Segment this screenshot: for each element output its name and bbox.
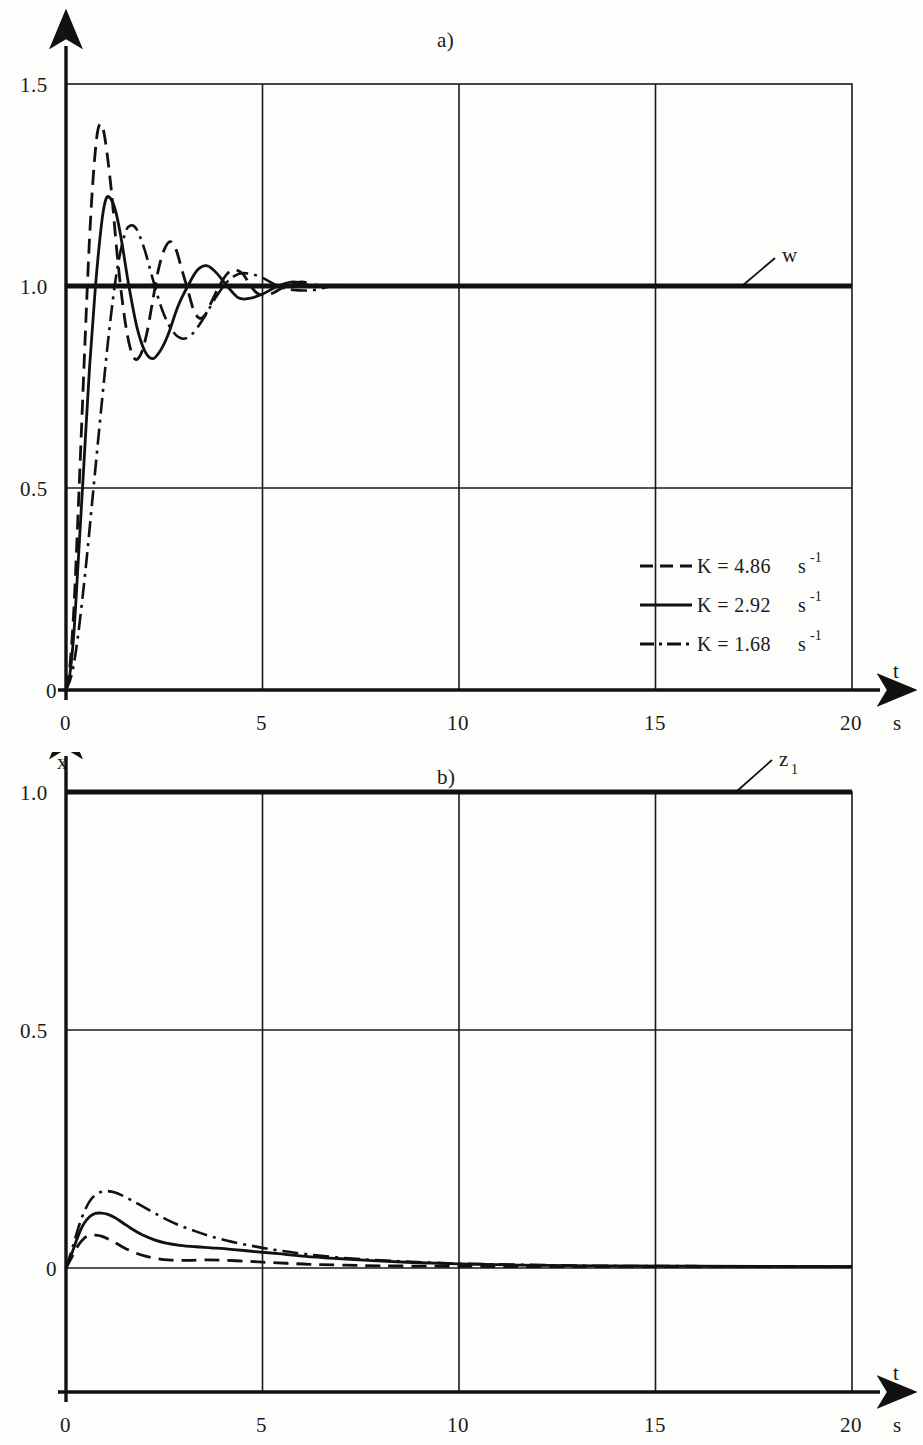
x-axis-unit-a: s <box>893 711 902 735</box>
panel-a-label: a) <box>437 28 454 53</box>
y-tick-b-2: 1.0 <box>20 781 48 805</box>
x-ticks-a: 0 5 10 15 20 <box>60 711 862 735</box>
x-tick-a-0: 0 <box>60 711 71 735</box>
x-tick-a-2: 10 <box>447 711 469 735</box>
x-ticks-b: 0 5 10 15 20 <box>60 1413 862 1437</box>
y-ticks-b: 1.0 0.5 0 <box>20 781 57 1281</box>
chart-panel-a: a) <box>0 0 923 752</box>
y-tick-b-1: 0.5 <box>20 1019 48 1043</box>
chart-b-grid <box>66 792 852 1392</box>
x-axis-label-b: t <box>893 1361 899 1385</box>
reference-leader-w <box>742 258 775 286</box>
x-tick-b-0: 0 <box>60 1413 71 1437</box>
x-axis-unit-b: s <box>893 1413 902 1437</box>
x-tick-a-1: 5 <box>256 711 267 735</box>
legend-label-2: K = 1.68 <box>697 633 771 655</box>
y-tick-a-2: 1.0 <box>20 275 48 299</box>
x-axis-label-a: t <box>893 659 899 683</box>
x-tick-b-2: 10 <box>447 1413 469 1437</box>
legend-exponent-0: -1 <box>810 550 822 565</box>
legend-unit-1: s <box>798 594 806 616</box>
y-tick-b-0: 0 <box>46 1257 57 1281</box>
reference-leader-z1 <box>736 760 772 792</box>
reference-label-w: w <box>782 243 798 267</box>
chart-a-svg: w 1.5 1.0 0.5 0 0 5 10 15 20 x t s <box>0 0 923 752</box>
legend-label-1: K = 2.92 <box>697 594 771 616</box>
x-tick-b-1: 5 <box>256 1413 267 1437</box>
figure-page: a) <box>0 0 923 1445</box>
reference-label-z1: z <box>779 752 789 771</box>
legend-exponent-2: -1 <box>810 628 822 643</box>
x-tick-a-3: 15 <box>644 711 666 735</box>
legend-unit-0: s <box>798 555 806 577</box>
reference-label-z1-sub: 1 <box>791 762 798 777</box>
panel-b-label: b) <box>437 765 456 790</box>
x-tick-b-4: 20 <box>840 1413 862 1437</box>
chart-panel-b: b) <box>0 752 923 1445</box>
x-tick-a-4: 20 <box>840 711 862 735</box>
x-tick-b-3: 15 <box>644 1413 666 1437</box>
y-tick-a-0: 0 <box>46 679 57 703</box>
y-tick-a-1: 0.5 <box>20 477 48 501</box>
y-axis-label-b: x <box>57 752 68 774</box>
y-axis-label-a: x <box>57 19 68 43</box>
legend-label-0: K = 4.86 <box>697 555 771 577</box>
y-ticks-a: 1.5 1.0 0.5 0 <box>20 73 57 703</box>
y-tick-a-3: 1.5 <box>20 73 48 97</box>
legend-exponent-1: -1 <box>810 589 822 604</box>
legend-a: K = 4.86 s -1 K = 2.92 s -1 K = 1.68 s -… <box>640 550 822 655</box>
legend-unit-2: s <box>798 633 806 655</box>
chart-b-svg: z 1 1.0 0.5 0 0 5 10 15 20 x t s <box>0 752 923 1445</box>
